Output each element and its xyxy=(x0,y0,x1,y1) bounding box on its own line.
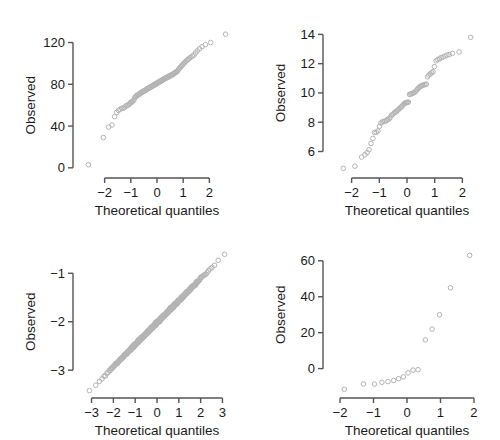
x-axis: −2−1012 xyxy=(333,398,478,420)
y-tick-label: −2 xyxy=(50,314,65,329)
y-tick-label: 10 xyxy=(301,85,315,100)
x-axis-title: Theoretical quantiles xyxy=(345,423,470,438)
x-tick-label: 2 xyxy=(206,185,213,200)
x-axis: −2−1012 xyxy=(344,178,466,200)
y-tick-label: 80 xyxy=(51,77,65,92)
y-axis-title: Observed xyxy=(23,292,38,351)
y-tick-label: 120 xyxy=(43,35,65,50)
qq-panel-top-left: −2−1012Theoretical quantiles04080120Obse… xyxy=(0,0,250,220)
x-axis: −3−2−10123 xyxy=(84,398,226,420)
y-axis: −3−2−1 xyxy=(50,266,73,378)
qq-panel-top-right: −2−1012Theoretical quantiles68101214Obse… xyxy=(250,0,500,220)
y-tick-label: −3 xyxy=(50,363,65,378)
data-points xyxy=(342,253,472,392)
x-tick-label: 1 xyxy=(437,405,444,420)
x-tick-label: −2 xyxy=(106,405,121,420)
y-tick-label: 20 xyxy=(301,325,315,340)
x-tick-label: 2 xyxy=(459,185,466,200)
y-tick-label: 0 xyxy=(58,160,65,175)
y-tick-label: 6 xyxy=(308,144,315,159)
y-tick-label: 8 xyxy=(308,115,315,130)
x-tick-label: 0 xyxy=(153,185,160,200)
y-axis: 0204060 xyxy=(301,253,323,376)
y-tick-label: 12 xyxy=(301,56,315,71)
y-axis-title: Observed xyxy=(23,76,38,135)
y-tick-label: −1 xyxy=(50,266,65,281)
qq-panel-bottom-left: −3−2−10123Theoretical quantiles−3−2−1Obs… xyxy=(0,220,250,440)
y-axis-title: Observed xyxy=(273,285,288,344)
x-tick-label: −2 xyxy=(333,405,348,420)
y-tick-label: 40 xyxy=(301,289,315,304)
x-tick-label: −2 xyxy=(344,185,359,200)
x-axis: −2−1012 xyxy=(97,178,213,200)
y-tick-label: 14 xyxy=(301,27,315,42)
y-tick-label: 40 xyxy=(51,119,65,134)
x-tick-label: −2 xyxy=(97,185,112,200)
data-points xyxy=(341,35,473,171)
x-tick-label: 0 xyxy=(153,405,160,420)
x-tick-label: −1 xyxy=(123,185,138,200)
x-tick-label: 0 xyxy=(403,185,410,200)
x-tick-label: −1 xyxy=(128,405,143,420)
x-axis-title: Theoretical quantiles xyxy=(95,203,220,218)
data-points xyxy=(87,252,227,393)
x-tick-label: 2 xyxy=(197,405,204,420)
qq-panel-bottom-right: −2−1012Theoretical quantiles0204060Obser… xyxy=(250,220,500,440)
x-tick-label: −1 xyxy=(366,405,381,420)
y-tick-label: 60 xyxy=(301,253,315,268)
y-axis-title: Observed xyxy=(273,64,288,123)
x-tick-label: 1 xyxy=(431,185,438,200)
qq-plot-figure: −2−1012Theoretical quantiles04080120Obse… xyxy=(0,0,500,440)
x-tick-label: 0 xyxy=(403,405,410,420)
x-tick-label: 2 xyxy=(470,405,477,420)
x-tick-label: −1 xyxy=(372,185,387,200)
x-tick-label: 1 xyxy=(175,405,182,420)
y-tick-label: 0 xyxy=(308,361,315,376)
x-axis-title: Theoretical quantiles xyxy=(95,423,220,438)
y-axis: 04080120 xyxy=(43,35,73,175)
data-points xyxy=(86,32,228,167)
y-axis: 68101214 xyxy=(301,27,323,159)
x-axis-title: Theoretical quantiles xyxy=(345,203,470,218)
x-tick-label: −3 xyxy=(84,405,99,420)
x-tick-label: 3 xyxy=(219,405,226,420)
x-tick-label: 1 xyxy=(180,185,187,200)
